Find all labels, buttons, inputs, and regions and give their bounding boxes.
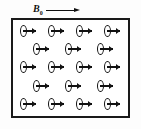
dipole-loop-icon (97, 80, 104, 92)
magnetic-dipole-icon (48, 98, 65, 111)
magnetic-dipole-icon (104, 98, 121, 111)
dipole-row (13, 79, 128, 94)
dipole-moment-arrowhead (116, 101, 120, 107)
magnetic-dipole-icon (76, 61, 93, 74)
dipole-moment-arrowhead (45, 46, 49, 52)
magnetic-dipole-icon (20, 61, 37, 74)
arrow-shaft (46, 10, 76, 11)
dipole-loop-icon (65, 80, 72, 92)
dipole-loop-icon (104, 61, 111, 73)
dipole-loop-icon (65, 43, 72, 55)
dipole-moment-arrowhead (45, 83, 49, 89)
magnetic-dipole-icon (33, 43, 50, 56)
dipole-moment-arrowhead (60, 28, 64, 34)
dipole-moment-arrowhead (88, 101, 92, 107)
dipole-moment-arrowhead (109, 83, 113, 89)
magnetic-dipole-icon (76, 98, 93, 111)
magnetic-dipole-icon (20, 98, 37, 111)
dipole-row (13, 97, 128, 112)
dipole-moment-arrowhead (116, 28, 120, 34)
dipole-loop-icon (33, 80, 40, 92)
dipole-moment-arrowhead (32, 28, 36, 34)
dipole-loop-icon (76, 98, 83, 110)
dipole-loop-icon (33, 43, 40, 55)
dipole-moment-arrowhead (88, 64, 92, 70)
dipole-row (13, 60, 128, 75)
dipole-row (13, 42, 128, 57)
dipole-loop-icon (48, 61, 55, 73)
external-field-label-group: B 0 (33, 1, 93, 17)
dipole-loop-icon (76, 61, 83, 73)
arrow-head (74, 8, 80, 12)
physics-figure: B 0 (0, 0, 141, 129)
dipole-loop-icon (104, 25, 111, 37)
dipole-moment-arrowhead (116, 64, 120, 70)
dipole-loop-icon (76, 25, 83, 37)
dipole-loop-icon (20, 25, 27, 37)
dipole-loop-icon (104, 98, 111, 110)
magnetic-dipole-icon (65, 80, 82, 93)
magnetic-dipole-icon (20, 25, 37, 38)
dipole-moment-arrowhead (77, 46, 81, 52)
field-symbol-B: B (33, 4, 40, 14)
magnetic-dipole-icon (104, 61, 121, 74)
dipole-moment-arrowhead (60, 64, 64, 70)
dipole-moment-arrowhead (88, 28, 92, 34)
magnetic-dipole-icon (65, 43, 82, 56)
external-field-arrow-icon (46, 8, 80, 14)
dipole-loop-icon (20, 61, 27, 73)
dipole-loop-icon (97, 43, 104, 55)
dipole-moment-arrowhead (77, 83, 81, 89)
dipole-loop-icon (48, 98, 55, 110)
sample-boundary-box (11, 18, 130, 118)
magnetic-dipole-icon (104, 25, 121, 38)
dipole-lattice (13, 20, 128, 116)
magnetic-dipole-icon (97, 43, 114, 56)
magnetic-dipole-icon (76, 25, 93, 38)
magnetic-dipole-icon (48, 61, 65, 74)
magnetic-dipole-icon (97, 80, 114, 93)
dipole-loop-icon (20, 98, 27, 110)
dipole-loop-icon (48, 25, 55, 37)
magnetic-dipole-icon (33, 80, 50, 93)
dipole-moment-arrowhead (32, 101, 36, 107)
magnetic-dipole-icon (48, 25, 65, 38)
dipole-moment-arrowhead (32, 64, 36, 70)
dipole-row (13, 24, 128, 39)
field-subscript: 0 (40, 10, 43, 16)
dipole-moment-arrowhead (109, 46, 113, 52)
dipole-moment-arrowhead (60, 101, 64, 107)
